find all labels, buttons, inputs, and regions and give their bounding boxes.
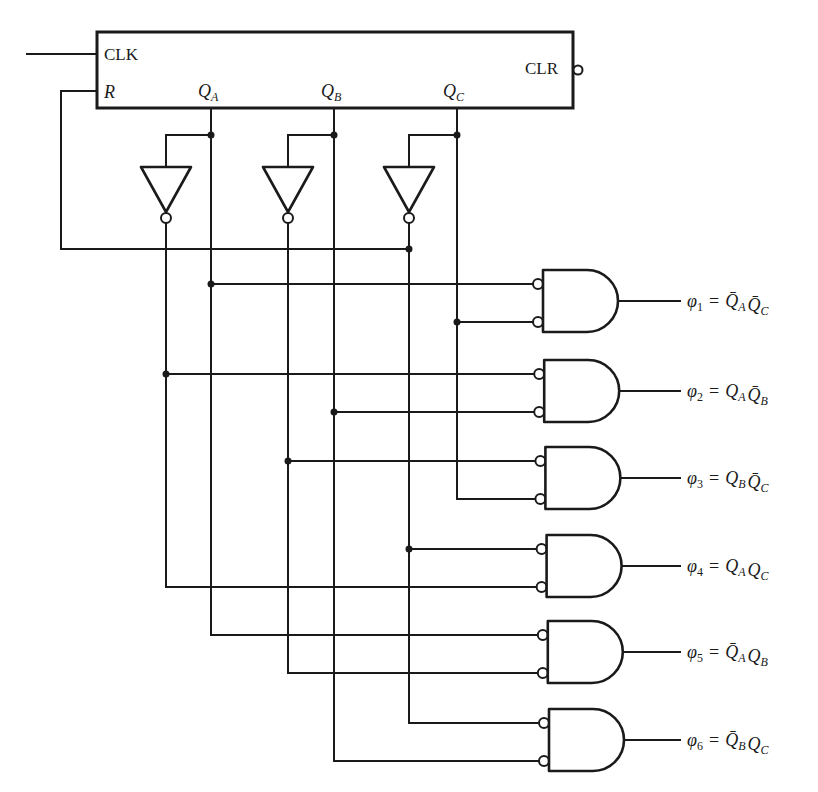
complemented-variable: Q̄ (725, 642, 738, 662)
gate-2-input-bubble-icon (534, 369, 544, 379)
gate-3-input-bubble-icon (535, 494, 545, 504)
phi-symbol: φ (687, 730, 697, 750)
phi-3-equation: φ3=QBQ̄C (687, 468, 769, 495)
gate-5-input-bubble-icon (538, 668, 548, 678)
phi-5-equation: φ5=Q̄AQB (687, 642, 768, 669)
equals-sign: = (709, 730, 719, 750)
variable-subscript: A (737, 651, 746, 665)
junction-dot (331, 409, 338, 416)
gate-4-input-bubble-icon (537, 582, 547, 592)
variable: Q (747, 734, 760, 754)
variable-subscript: C (760, 569, 769, 583)
junction-dot (163, 371, 170, 378)
complemented-variable: Q̄ (725, 730, 738, 750)
variable: Q (747, 646, 760, 666)
phi-symbol: φ (687, 381, 697, 401)
phi-symbol: φ (687, 468, 697, 488)
gate-3-input-bubble-icon (535, 456, 545, 466)
variable: Q (725, 556, 738, 576)
complemented-variable: Q̄ (725, 291, 738, 311)
and-gate-1 (533, 270, 618, 332)
inverter-2-triangle-icon (263, 167, 313, 212)
phi-symbol: φ (687, 642, 697, 662)
variable: Q (725, 381, 738, 401)
junction-dot (406, 246, 413, 253)
clk-label: CLK (104, 45, 139, 64)
and-gate-2-body-icon (544, 360, 619, 422)
junction-dot (406, 546, 413, 553)
junction-dot (454, 132, 461, 139)
phi-index: 5 (697, 651, 703, 665)
reset-feedback-wire (61, 91, 409, 249)
and-gate-4 (537, 535, 622, 597)
gate-1-input-bubble-icon (533, 279, 543, 289)
inverter-1-triangle-icon (141, 167, 191, 212)
variable: Q (747, 560, 760, 580)
equals-sign: = (709, 642, 719, 662)
phi-index: 4 (697, 565, 703, 579)
phi-4-equation: φ4=QAQC (687, 556, 769, 583)
and-gate-3 (535, 447, 620, 509)
variable-subscript: B (760, 655, 768, 669)
junction-dot (208, 132, 215, 139)
complemented-variable: Q̄ (747, 385, 760, 405)
and-gate-group (533, 270, 624, 771)
phi-1-equation: φ1=Q̄AQ̄C (687, 291, 769, 318)
gate-6-input-bubble-icon (539, 718, 549, 728)
reset-label: R (103, 82, 115, 102)
and-gate-5 (538, 621, 623, 683)
phi-symbol: φ (687, 556, 697, 576)
inverter-feed-wire (166, 135, 211, 167)
variable-subscript: B (738, 477, 746, 491)
junction-dot (208, 281, 215, 288)
and-gate-2 (534, 360, 619, 422)
gate-6-input-bubble-icon (539, 756, 549, 766)
complemented-variable: Q̄ (747, 472, 760, 492)
equals-sign: = (709, 556, 719, 576)
and-gate-6 (539, 709, 624, 771)
inverter-feed-wire (288, 135, 334, 167)
phi-index: 6 (697, 739, 703, 753)
equals-sign: = (709, 381, 719, 401)
junction-dot (285, 458, 292, 465)
equals-sign: = (709, 468, 719, 488)
inverter-2-bubble-icon (283, 213, 293, 223)
gate-4-input-bubble-icon (537, 544, 547, 554)
phi-index: 3 (697, 477, 703, 491)
output-equations: φ1=Q̄AQ̄Cφ2=QAQ̄Bφ3=QBQ̄Cφ4=QAQCφ5=Q̄AQB… (687, 291, 769, 757)
variable-subscript: B (760, 394, 768, 408)
and-gate-4-body-icon (547, 535, 622, 597)
inverter-group (141, 167, 434, 223)
variable-subscript: C (760, 304, 769, 318)
phi-symbol: φ (687, 291, 697, 311)
and-gate-3-body-icon (545, 447, 620, 509)
gate-5-input-bubble-icon (538, 630, 548, 640)
equals-sign: = (709, 291, 719, 311)
phi-index: 1 (697, 300, 703, 314)
complemented-variable: Q̄ (747, 295, 760, 315)
and-gate-6-body-icon (549, 709, 624, 771)
inverter-1-bubble-icon (161, 213, 171, 223)
inverter-3-bubble-icon (404, 213, 414, 223)
variable-subscript: B (738, 739, 746, 753)
phi-6-equation: φ6=Q̄BQC (687, 730, 769, 757)
phi-2-equation: φ2=QAQ̄B (687, 381, 768, 408)
junction-dot (331, 132, 338, 139)
phi-index: 2 (697, 390, 703, 404)
gate-1-input-bubble-icon (533, 317, 543, 327)
inverter-3-triangle-icon (384, 167, 434, 212)
junction-dot (454, 319, 461, 326)
variable-subscript: C (760, 743, 769, 757)
inverter-feed-wire (409, 135, 457, 167)
logic-diagram: CLK R CLR QA QB QC φ1=Q̄AQ̄Cφ2=QAQ̄Bφ3=Q… (0, 0, 818, 792)
variable: Q (725, 468, 738, 488)
clr-label: CLR (525, 59, 559, 78)
clr-inversion-bubble-icon (574, 66, 583, 75)
gate-2-input-bubble-icon (534, 407, 544, 417)
variable-subscript: C (760, 481, 769, 495)
and-gate-5-body-icon (548, 621, 623, 683)
variable-subscript: A (737, 565, 746, 579)
variable-subscript: A (737, 390, 746, 404)
variable-subscript: A (737, 300, 746, 314)
circuit-schematic: CLK R CLR QA QB QC φ1=Q̄AQ̄Cφ2=QAQ̄Bφ3=Q… (0, 0, 818, 792)
